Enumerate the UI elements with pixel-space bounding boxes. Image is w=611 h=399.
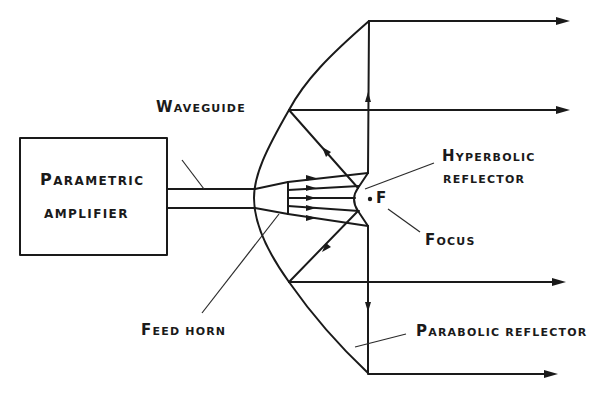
parabolic-reflector-label: PARABOLIC REFLECTOR (416, 324, 587, 339)
label-text: REFLECTOR (443, 173, 525, 186)
parametric-amplifier-label-line2: AMPLIFIER (44, 208, 129, 220)
label-cap: W (156, 98, 174, 116)
label-cap: P (40, 170, 53, 189)
label-text: F (376, 189, 387, 207)
label-rest: ARABOLIC REFLECTOR (428, 326, 587, 339)
focus-point-letter: F (376, 191, 387, 206)
label-rest: ARAMETRIC (53, 174, 144, 188)
parametric-amplifier-box (20, 138, 167, 255)
label-rest: YPERBOLIC (456, 151, 536, 164)
label-rest: EED HORN (152, 325, 226, 338)
waveguide (167, 189, 255, 208)
focus-label: FOCUS (425, 233, 476, 248)
focus-point (368, 197, 372, 201)
parametric-amplifier-label-line1: PARAMETRIC (40, 172, 144, 188)
label-text: AMPLIFIER (44, 207, 129, 221)
label-cap: F (425, 231, 436, 249)
waveguide-label: WAVEGUIDE (156, 100, 246, 115)
hyperbolic-reflector-label-line1: HYPERBOLIC (442, 149, 536, 164)
label-rest: OCUS (436, 235, 475, 248)
label-cap: H (442, 147, 456, 165)
label-cap: F (141, 321, 152, 339)
label-cap: P (416, 322, 428, 340)
label-rest: AVEGUIDE (174, 102, 246, 115)
feed-horn-label: FEED HORN (141, 323, 226, 338)
diagonal-rays (289, 110, 358, 282)
hyperbolic-reflector-label-line2: REFLECTOR (443, 174, 525, 185)
cassegrain-antenna-diagram (0, 0, 611, 399)
feed-horn (255, 182, 288, 214)
horn-to-subreflector-rays (288, 173, 368, 226)
hyperbolic-reflector (354, 173, 368, 226)
